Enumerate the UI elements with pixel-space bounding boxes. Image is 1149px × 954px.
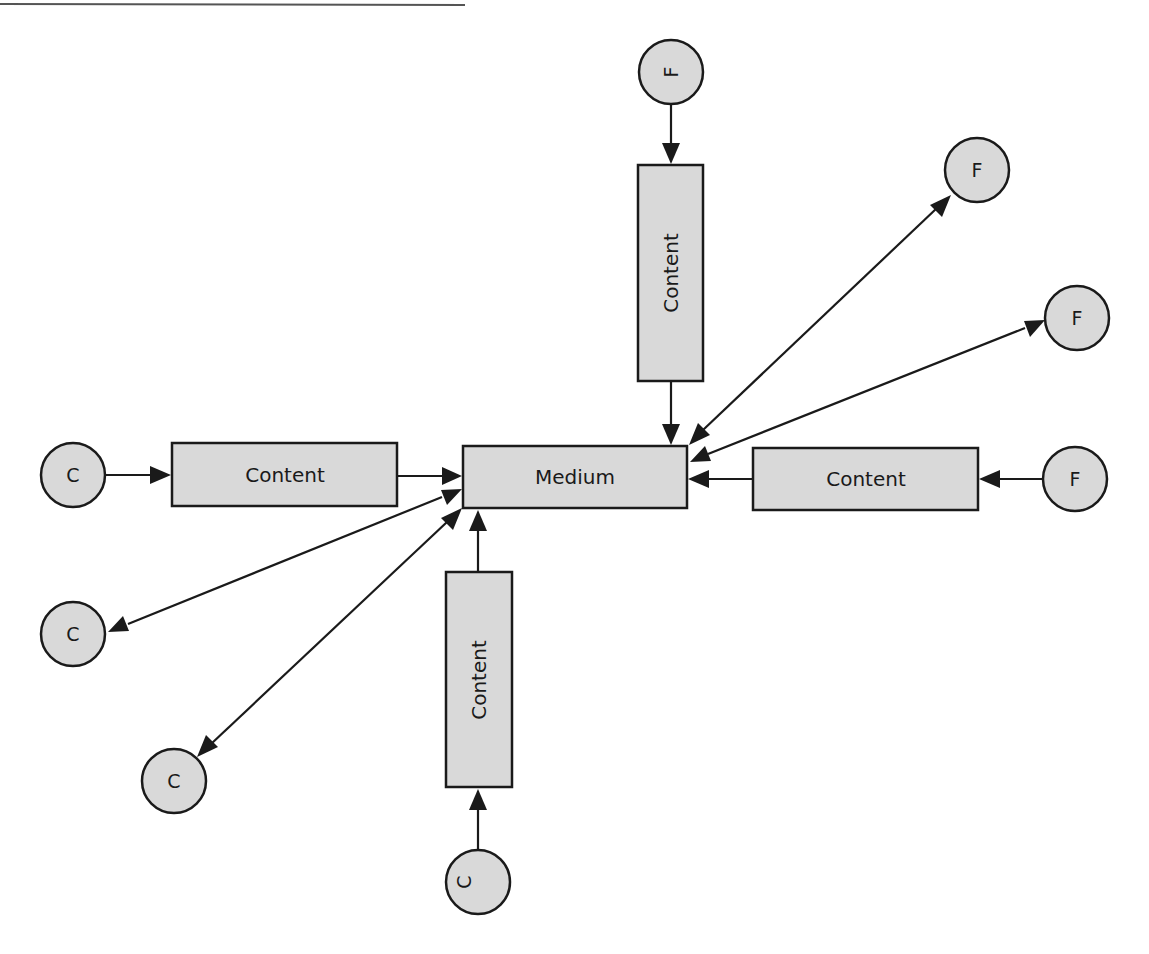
arrowhead-icon [108,616,129,632]
content-label: Content [245,463,325,487]
node-c-bottom-left: C [142,749,206,813]
arrowhead-icon [469,789,487,810]
arrowhead-icon [688,470,709,488]
arrowhead-icon [930,195,951,217]
top-rule [0,4,465,5]
node-f-upper-right: F [945,138,1009,202]
content-box-top: Content [638,165,703,381]
content-label: Content [659,233,683,313]
edge-medium-f-mid-right [708,328,1025,454]
node-label: C [453,875,475,888]
content-box-left: Content [172,443,397,506]
content-box-bottom: Content [446,572,512,787]
node-label: F [1072,307,1083,329]
content-label: Content [467,640,491,720]
node-label: F [972,159,983,181]
arrowhead-icon [662,143,680,164]
node-label: F [660,67,682,78]
node-label: F [1070,468,1081,490]
medium-label: Medium [535,465,615,489]
edge-medium-c-lower-left [128,497,442,624]
medium-node: Medium [463,446,687,508]
arrowhead-icon [979,470,1000,488]
arrowhead-icon [441,508,462,530]
node-label: C [167,770,180,792]
arrowhead-icon [441,489,462,505]
node-c-left: C [41,443,105,507]
node-f-top: F [639,40,703,104]
node-c-lower-left: C [41,602,105,666]
node-c-bottom: C [446,850,510,914]
edge-medium-c-bottom-left [211,522,447,744]
arrowhead-icon [150,466,171,484]
arrowhead-icon [690,446,711,462]
node-f-right: F [1043,447,1107,511]
node-f-mid-right: F [1045,286,1109,350]
edge-medium-f-upper-right [703,208,937,430]
node-label: C [66,464,79,486]
arrowhead-icon [469,510,487,531]
communication-model-diagram: Medium Content Content Content Content C… [0,0,1149,954]
arrowhead-icon [662,424,680,445]
arrowhead-icon [442,467,462,485]
node-label: C [66,623,79,645]
content-box-right: Content [753,448,978,510]
content-label: Content [826,467,906,491]
arrowhead-icon [197,735,218,757]
arrowhead-icon [1024,320,1045,337]
